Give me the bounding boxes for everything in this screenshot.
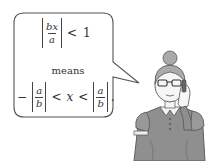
woman-on-phone-icon <box>0 0 206 161</box>
illustration: bx a < 1 means − a b < x < a b . <box>0 0 206 161</box>
